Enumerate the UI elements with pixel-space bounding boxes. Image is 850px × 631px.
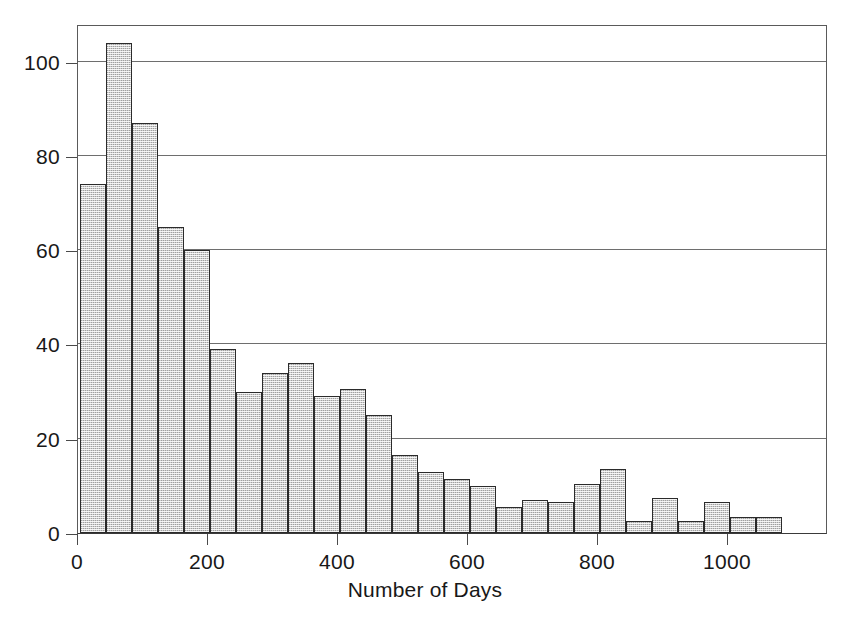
histogram-bar [756,517,782,533]
histogram-bar [106,43,132,533]
x-tick-label: 600 [449,551,485,572]
y-tick-mark [66,534,77,535]
histogram-bar [288,363,314,533]
x-tick-label: 0 [71,551,83,572]
histogram-bar [678,521,704,533]
histogram-bar [626,521,652,533]
x-tick-mark [337,534,338,545]
x-axis-title: Number of Days [0,578,850,602]
histogram-figure: 020406080100 Number of Days 020040060080… [0,0,850,631]
histogram-bar [418,472,444,533]
histogram-bar [548,502,574,533]
x-tick-mark [727,534,728,545]
y-tick-label: 20 [36,429,60,450]
histogram-bar [80,184,106,533]
histogram-bar [704,502,730,533]
histogram-bar [340,389,366,533]
histogram-bar [574,484,600,533]
x-tick-label: 400 [319,551,355,572]
histogram-bar [236,392,262,533]
y-tick-mark [66,157,77,158]
histogram-bar [522,500,548,533]
x-tick-mark [207,534,208,545]
histogram-bar [496,507,522,533]
y-tick-mark [66,345,77,346]
y-tick-label: 80 [36,146,60,167]
y-tick-label: 40 [36,334,60,355]
y-tick-mark [66,251,77,252]
histogram-bar [158,227,184,533]
histogram-bar [210,349,236,533]
x-tick-label: 800 [579,551,615,572]
histogram-bar [470,486,496,533]
x-tick-mark [597,534,598,545]
histogram-bar [730,517,756,533]
histogram-bar [444,479,470,533]
y-tick-mark [66,63,77,64]
x-tick-mark [77,534,78,545]
histogram-bar [184,250,210,533]
y-tick-label: 0 [48,523,60,544]
bars-group [78,26,826,533]
x-tick-label: 1000 [703,551,751,572]
histogram-bar [600,469,626,533]
histogram-bar [366,415,392,533]
histogram-bar [262,373,288,533]
y-tick-label: 100 [24,52,60,73]
histogram-bar [392,455,418,533]
histogram-bar [652,498,678,533]
y-tick-label: 60 [36,240,60,261]
x-tick-label: 200 [189,551,225,572]
histogram-bar [132,123,158,533]
x-tick-mark [467,534,468,545]
y-tick-mark [66,440,77,441]
histogram-bar [314,396,340,533]
y-axis-labels: 020406080100 [0,0,60,631]
plot-area [77,25,827,534]
